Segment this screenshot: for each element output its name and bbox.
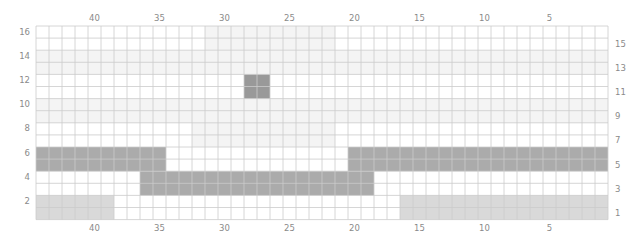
- row-label-right-1: 1: [615, 208, 620, 218]
- row-label-right-9: 9: [615, 111, 620, 121]
- row-label-left-8: 8: [25, 123, 30, 133]
- column-label-bottom-5: 5: [547, 223, 552, 233]
- column-label-bottom-15: 15: [414, 223, 425, 233]
- row-label-right-7: 7: [615, 135, 620, 145]
- row-label-right-3: 3: [615, 184, 620, 194]
- row-label-left-12: 12: [19, 75, 30, 85]
- row-label-left-16: 16: [19, 27, 30, 37]
- column-label-top-35: 35: [154, 13, 165, 23]
- grid-svg: 4040353530302525202015151010551614121086…: [0, 0, 639, 244]
- column-label-bottom-30: 30: [219, 223, 230, 233]
- row-label-right-5: 5: [615, 160, 620, 170]
- row-label-left-14: 14: [19, 51, 30, 61]
- row-label-left-4: 4: [25, 172, 30, 182]
- row-label-left-6: 6: [25, 148, 30, 158]
- column-label-bottom-10: 10: [479, 223, 490, 233]
- column-label-top-10: 10: [479, 13, 490, 23]
- row-label-right-11: 11: [615, 87, 626, 97]
- pattern-grid-chart: 4040353530302525202015151010551614121086…: [0, 0, 639, 244]
- column-label-bottom-25: 25: [284, 223, 295, 233]
- column-label-bottom-35: 35: [154, 223, 165, 233]
- column-label-top-30: 30: [219, 13, 230, 23]
- row-label-left-10: 10: [19, 99, 30, 109]
- row-label-right-13: 13: [615, 63, 626, 73]
- row-label-right-15: 15: [615, 39, 626, 49]
- column-label-top-20: 20: [349, 13, 360, 23]
- column-label-top-15: 15: [414, 13, 425, 23]
- column-label-bottom-40: 40: [89, 223, 100, 233]
- column-label-top-5: 5: [547, 13, 552, 23]
- column-label-bottom-20: 20: [349, 223, 360, 233]
- column-label-top-25: 25: [284, 13, 295, 23]
- row-label-left-2: 2: [25, 196, 30, 206]
- column-label-top-40: 40: [89, 13, 100, 23]
